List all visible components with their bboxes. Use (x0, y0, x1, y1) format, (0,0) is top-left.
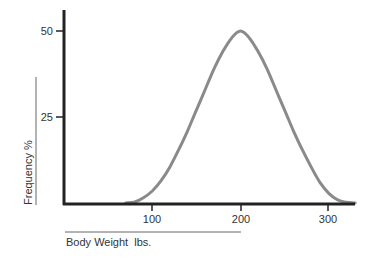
y-axis-title: Frequency % (22, 140, 34, 205)
x-tick-label-200: 200 (232, 213, 250, 225)
distribution-curve (126, 31, 355, 203)
bell-curve-chart: Frequency % Body Weight lbs. 50 25 100 2… (0, 0, 374, 259)
x-tick-label-100: 100 (143, 213, 161, 225)
x-tick-label-300: 300 (319, 213, 337, 225)
y-tick-label-25: 25 (41, 111, 53, 123)
y-tick-label-50: 50 (41, 25, 53, 37)
x-axis-title: Body Weight lbs. (66, 236, 151, 248)
